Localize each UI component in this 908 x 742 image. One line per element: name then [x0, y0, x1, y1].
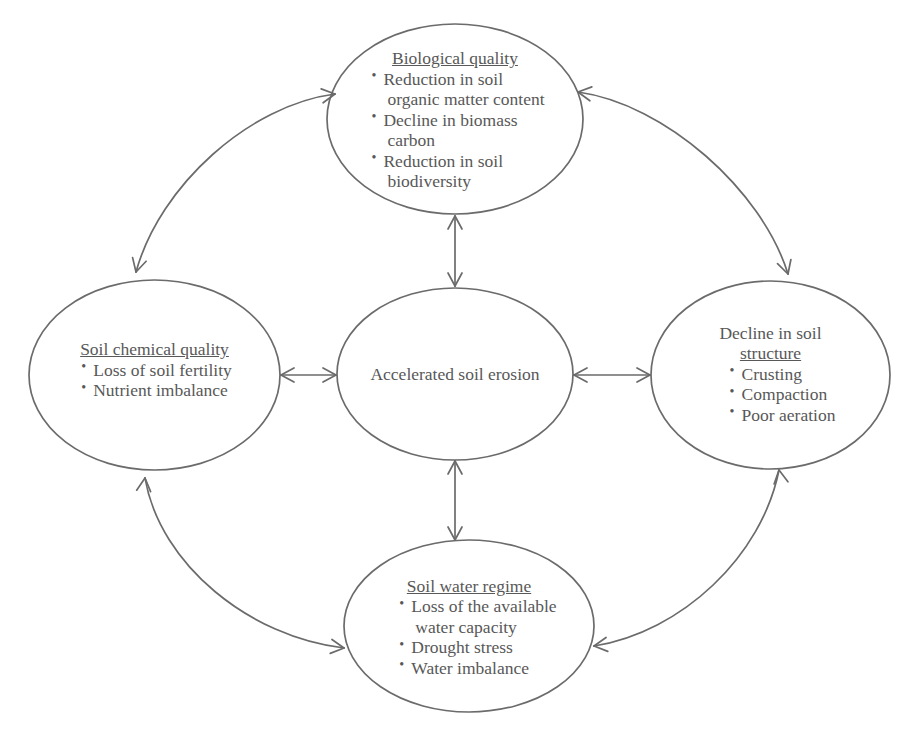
connector-left-bottom-arc — [137, 477, 345, 655]
node-biological-quality[interactable]: Biological quality Reduction in soil org… — [327, 24, 583, 214]
node-bullet-list: Crusting Compaction Poor aeration — [730, 364, 836, 425]
list-item: Reduction in soil biodiversity — [371, 151, 544, 192]
diagram-canvas: Biological quality Reduction in soil org… — [0, 0, 908, 742]
bullet-line-1: Reduction in soil — [383, 151, 503, 171]
bullet-line-2: water capacity — [411, 617, 556, 637]
node-content: Accelerated soil erosion — [356, 364, 553, 385]
bullet-line-1: Water imbalance — [411, 658, 529, 678]
bullet-line-1: Loss of the available — [411, 596, 556, 616]
bullet-line-1: Loss of soil fertility — [93, 360, 232, 380]
bullet-line-1: Drought stress — [411, 637, 513, 657]
list-item: Loss of the available water capacity — [399, 596, 556, 637]
list-item: Crusting — [730, 364, 836, 384]
list-item: Decline in biomass carbon — [371, 110, 544, 151]
list-item: Water imbalance — [399, 658, 556, 678]
node-title: Decline in soil structure — [706, 323, 836, 364]
bullet-line-2: organic matter content — [383, 89, 544, 109]
node-bullet-list: Loss of the available water capacity Dro… — [399, 596, 556, 678]
node-title-line-1: Decline in soil — [706, 323, 836, 343]
node-title: Soil water regime — [381, 576, 556, 596]
list-item: Drought stress — [399, 637, 556, 657]
node-content: Biological quality Reduction in soil org… — [351, 48, 558, 191]
node-title: Soil chemical quality — [77, 339, 232, 359]
bullet-line-2: biodiversity — [383, 171, 544, 191]
node-soil-chemical-quality[interactable]: Soil chemical quality Loss of soil ferti… — [29, 280, 280, 470]
node-soil-water-regime[interactable]: Soil water regime Loss of the available … — [344, 540, 594, 712]
list-item: Reduction in soil organic matter content — [371, 69, 544, 110]
node-bullet-list: Reduction in soil organic matter content… — [371, 69, 544, 192]
connector-top-right-arc — [577, 85, 795, 276]
node-accelerated-soil-erosion[interactable]: Accelerated soil erosion — [337, 288, 573, 460]
bullet-line-1: Compaction — [742, 384, 828, 404]
node-bullet-list: Loss of soil fertility Nutrient imbalanc… — [81, 360, 232, 401]
node-content: Soil water regime Loss of the available … — [367, 576, 570, 678]
node-title: Biological quality — [365, 48, 544, 68]
connector-center-top — [448, 216, 462, 286]
list-item: Nutrient imbalance — [81, 380, 232, 400]
bullet-line-1: Decline in biomass — [383, 110, 517, 130]
connector-center-left — [281, 368, 336, 382]
bullet-line-1: Reduction in soil — [383, 69, 503, 89]
connector-right-bottom-arc — [593, 469, 788, 653]
list-item: Compaction — [730, 384, 836, 404]
node-title-line-2: structure — [706, 343, 836, 363]
node-content: Decline in soil structure Crusting Compa… — [692, 323, 850, 425]
connector-top-left-arc — [129, 87, 336, 274]
bullet-line-1: Poor aeration — [742, 405, 836, 425]
connector-center-right — [574, 368, 650, 382]
bullet-line-1: Crusting — [742, 364, 802, 384]
bullet-line-2: carbon — [383, 130, 544, 150]
list-item: Poor aeration — [730, 405, 836, 425]
bullet-line-1: Nutrient imbalance — [93, 380, 228, 400]
node-content: Soil chemical quality Loss of soil ferti… — [63, 339, 246, 400]
node-decline-in-soil-structure[interactable]: Decline in soil structure Crusting Compa… — [651, 281, 890, 469]
list-item: Loss of soil fertility — [81, 360, 232, 380]
node-title: Accelerated soil erosion — [370, 364, 539, 385]
connector-center-bottom — [448, 461, 462, 540]
